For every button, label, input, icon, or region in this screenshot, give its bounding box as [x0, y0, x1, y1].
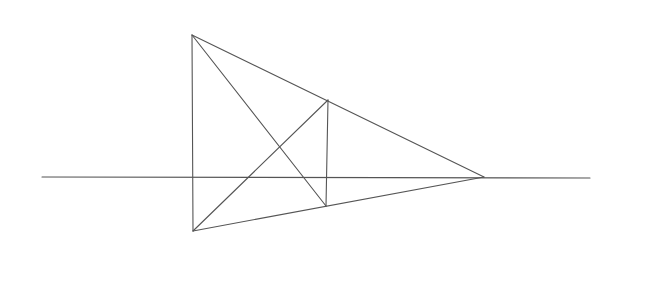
segment-BE: [193, 177, 484, 231]
diagram-canvas: [0, 0, 645, 297]
segment-CD: [326, 100, 328, 206]
horizon-line: [42, 177, 590, 178]
segment-AE: [192, 35, 484, 177]
segment-AD: [192, 35, 326, 206]
construction-lines: [192, 35, 484, 231]
segment-AB: [192, 35, 193, 231]
segment-BC: [193, 100, 328, 231]
